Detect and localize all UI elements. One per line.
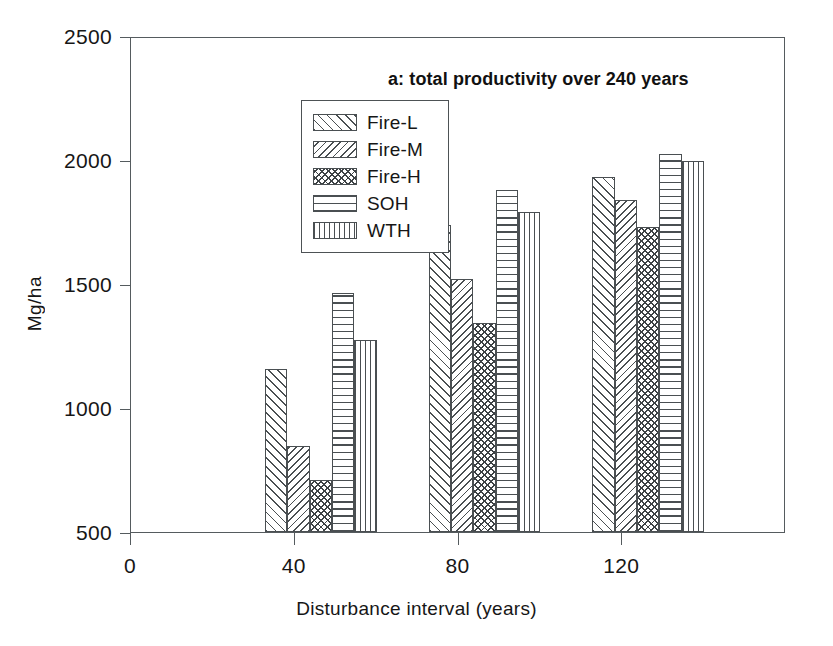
x-axis-title: Disturbance interval (years) (0, 598, 833, 620)
legend-item-fire-m: Fire-M (302, 136, 448, 163)
legend-label: Fire-M (367, 139, 423, 161)
legend-label: Fire-H (367, 166, 421, 188)
x-tick-mark (621, 533, 622, 545)
x-tick-label: 120 (603, 554, 639, 578)
legend-item-wth: WTH (302, 217, 448, 244)
x-tick-label: 40 (282, 554, 306, 578)
legend: Fire-LFire-MFire-HSOHWTH (301, 100, 449, 253)
bar-soh-80 (496, 190, 518, 532)
y-tick-label: 500 (0, 521, 112, 545)
bar-fire-l-120 (592, 177, 614, 532)
x-tick-mark (458, 533, 459, 545)
bar-fire-l-40 (265, 369, 287, 532)
y-tick-label: 2500 (0, 25, 112, 49)
legend-swatch-soh (313, 195, 357, 212)
figure-panel-a: Mg/ha 5001000150020002500 Fire-LFire-MFi… (0, 0, 833, 646)
x-tick-mark (294, 533, 295, 545)
legend-label: SOH (367, 193, 409, 215)
legend-item-soh: SOH (302, 190, 448, 217)
panel-annotation: a: total productivity over 240 years (388, 69, 689, 90)
bar-wth-40 (354, 340, 376, 532)
bar-fire-l-80 (429, 225, 451, 532)
plot-area: Fire-LFire-MFire-HSOHWTH (130, 37, 785, 533)
bar-wth-120 (682, 161, 704, 532)
legend-swatch-wth (313, 222, 357, 239)
y-tick-label: 2000 (0, 149, 112, 173)
legend-label: Fire-L (367, 112, 418, 134)
bar-fire-h-40 (310, 480, 332, 532)
bar-fire-h-120 (637, 227, 659, 532)
bar-fire-m-120 (615, 200, 637, 532)
x-tick-mark (130, 533, 131, 545)
legend-item-fire-l: Fire-L (302, 109, 448, 136)
x-tick-label: 0 (124, 554, 136, 578)
y-tick-label: 1000 (0, 397, 112, 421)
x-tick-label: 80 (446, 554, 470, 578)
y-tick-label: 1500 (0, 273, 112, 297)
legend-label: WTH (367, 220, 411, 242)
bar-fire-m-80 (451, 279, 473, 532)
legend-swatch-fire-l (313, 114, 357, 131)
bar-soh-120 (659, 154, 681, 532)
legend-item-fire-h: Fire-H (302, 163, 448, 190)
bar-fire-h-80 (473, 323, 495, 532)
bar-soh-40 (332, 293, 354, 532)
legend-swatch-fire-m (313, 141, 357, 158)
legend-swatch-fire-h (313, 168, 357, 185)
bar-fire-m-40 (287, 446, 309, 532)
bar-wth-80 (518, 212, 540, 532)
